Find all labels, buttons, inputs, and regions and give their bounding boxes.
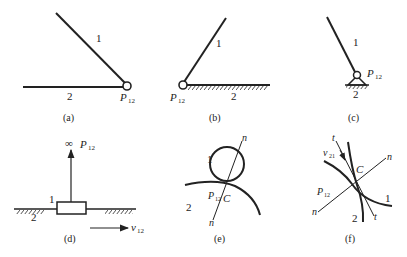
infinity-symbol: ∞ bbox=[65, 137, 73, 149]
link-2-label: 2 bbox=[67, 90, 73, 102]
pole-subscript: 12 bbox=[324, 192, 330, 198]
tangent-label-top: t bbox=[332, 132, 335, 143]
pole-label: P bbox=[207, 190, 214, 201]
panel-b: 1 2 P 12 (b) bbox=[169, 18, 270, 124]
pole-subscript: 12 bbox=[215, 196, 221, 202]
panel-c: 1 2 P 12 (c) bbox=[327, 17, 383, 124]
normal-label-left: n bbox=[312, 206, 317, 217]
panel-f: t t n n v 21 C P 12 1 2 (f) bbox=[312, 132, 392, 245]
normal-line bbox=[213, 141, 242, 220]
caption-a: (a) bbox=[63, 112, 74, 124]
caption-f: (f) bbox=[345, 233, 355, 245]
contact-label: C bbox=[356, 163, 364, 175]
tangent-line bbox=[336, 141, 374, 216]
caption-d: (d) bbox=[64, 233, 76, 245]
link-1 bbox=[184, 18, 226, 82]
pole-label: P bbox=[169, 91, 177, 103]
pivot-icon bbox=[354, 72, 361, 79]
pole-label: P bbox=[79, 138, 87, 150]
ground-hatch-right bbox=[105, 210, 133, 214]
slider-block-1 bbox=[57, 202, 86, 214]
normal-label-top: n bbox=[242, 132, 247, 143]
velocity-label: v bbox=[323, 147, 328, 158]
link-1-label: 1 bbox=[96, 32, 102, 44]
caption-c: (c) bbox=[348, 112, 359, 124]
velocity-subscript: 21 bbox=[329, 153, 335, 159]
link-2-label: 2 bbox=[352, 212, 358, 224]
panel-e: n n 1 2 P 12 C (e) bbox=[185, 132, 260, 245]
pole-subscript: 12 bbox=[128, 97, 136, 105]
link-1 bbox=[56, 13, 126, 84]
pole-label: P bbox=[316, 186, 323, 197]
velocity-arrow bbox=[340, 150, 345, 160]
link-2-label: 2 bbox=[353, 88, 359, 100]
link-1-label: 1 bbox=[49, 193, 55, 205]
contact-label: C bbox=[223, 192, 231, 204]
pole-label: P bbox=[366, 67, 374, 79]
link-1-label: 1 bbox=[353, 36, 359, 48]
link-1-label: 1 bbox=[216, 37, 222, 49]
caption-e: (e) bbox=[214, 233, 225, 245]
panel-d: ∞ P 12 1 2 v 12 (d) bbox=[14, 137, 145, 245]
pivot-icon bbox=[179, 81, 187, 89]
link-2-label: 2 bbox=[31, 211, 37, 223]
velocity-subscript: 12 bbox=[137, 227, 145, 235]
normal-label-right: n bbox=[387, 151, 392, 162]
link-2-label: 2 bbox=[231, 90, 237, 102]
link-1-label: 1 bbox=[385, 192, 391, 204]
normal-label-bottom: n bbox=[209, 217, 214, 228]
pole-subscript: 12 bbox=[375, 73, 383, 81]
pole-label: P bbox=[119, 91, 127, 103]
tangent-label-bottom: t bbox=[374, 211, 377, 222]
panel-a: 1 2 P 12 (a) bbox=[23, 13, 136, 124]
caption-b: (b) bbox=[209, 112, 221, 124]
pivot-icon bbox=[123, 82, 131, 90]
pole-subscript: 12 bbox=[178, 97, 186, 105]
ground-hatch bbox=[188, 86, 268, 90]
link-1-label: 1 bbox=[207, 153, 213, 165]
pole-subscript: 12 bbox=[88, 144, 96, 152]
velocity-label: v bbox=[131, 221, 136, 233]
link-1 bbox=[327, 17, 355, 72]
ground-hatch-left bbox=[16, 210, 44, 214]
link-2-label: 2 bbox=[186, 201, 192, 213]
circle-link-1 bbox=[210, 147, 244, 181]
